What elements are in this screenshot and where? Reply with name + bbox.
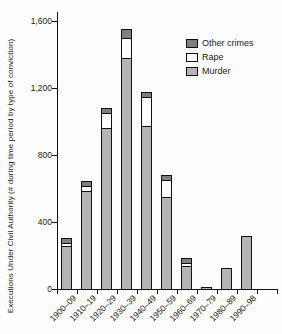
bar-1910–19 xyxy=(81,181,92,290)
x-axis-tick xyxy=(257,289,258,294)
y-axis-tick-label: 800 xyxy=(14,150,52,160)
y-axis-tick xyxy=(52,222,57,223)
bar-segment-rape xyxy=(142,98,151,127)
bar-segment-rape xyxy=(122,39,131,59)
bar-segment-murder xyxy=(162,198,171,289)
bar-segment-murder xyxy=(222,269,231,289)
x-axis-tick xyxy=(117,289,118,294)
y-axis-line xyxy=(57,12,58,290)
legend-swatch-rape xyxy=(186,53,198,62)
y-axis-tick xyxy=(52,88,57,89)
y-axis-tick-label: 400 xyxy=(14,217,52,227)
bar-1930–39 xyxy=(121,29,132,290)
legend: Other crimesRapeMurder xyxy=(186,38,254,80)
bar-segment-murder xyxy=(182,267,191,289)
legend-swatch-murder xyxy=(186,67,198,76)
legend-item: Rape xyxy=(186,52,254,62)
bar-1900–09 xyxy=(61,238,72,290)
bar-1980–89 xyxy=(221,268,232,290)
bar-segment-murder xyxy=(142,127,151,289)
x-axis-tick xyxy=(277,289,278,294)
bar-1970–79 xyxy=(201,287,212,290)
x-axis-tick xyxy=(137,289,138,294)
y-axis-title-text: Executions Under Civil Authority (# duri… xyxy=(6,39,15,314)
bar-1940–49 xyxy=(141,92,152,290)
y-axis-tick-label: 1,200 xyxy=(14,83,52,93)
legend-label: Rape xyxy=(202,52,224,62)
bar-1920–29 xyxy=(101,108,112,290)
y-axis-tick-label: 0 xyxy=(14,284,52,294)
x-axis-tick xyxy=(57,289,58,294)
bar-segment-murder xyxy=(242,237,251,289)
x-axis-tick xyxy=(157,289,158,294)
bar-segment-murder xyxy=(102,129,111,289)
bar-segment-murder xyxy=(202,288,211,289)
x-axis-tick xyxy=(237,289,238,294)
bar-segment-murder xyxy=(82,192,91,289)
bar-segment-murder xyxy=(122,59,131,289)
x-axis-tick xyxy=(77,289,78,294)
bar-1990–98 xyxy=(241,236,252,290)
y-axis-tick-label: 1,600 xyxy=(14,16,52,26)
x-axis-tick xyxy=(177,289,178,294)
bar-1960–69 xyxy=(181,258,192,290)
x-axis-tick xyxy=(217,289,218,294)
legend-label: Other crimes xyxy=(202,38,254,48)
executions-bar-chart: Executions Under Civil Authority (# duri… xyxy=(0,0,282,334)
x-axis-tick xyxy=(97,289,98,294)
bar-segment-other-crimes xyxy=(122,30,131,39)
bar-segment-rape xyxy=(102,114,111,129)
bar-segment-murder xyxy=(62,247,71,289)
y-axis-tick xyxy=(52,21,57,22)
legend-swatch-other-crimes xyxy=(186,39,198,48)
y-axis-tick xyxy=(52,155,57,156)
legend-label: Murder xyxy=(202,66,231,76)
x-axis-tick xyxy=(197,289,198,294)
bar-1950–59 xyxy=(161,175,172,290)
bar-segment-rape xyxy=(162,181,171,198)
legend-item: Murder xyxy=(186,66,254,76)
legend-item: Other crimes xyxy=(186,38,254,48)
